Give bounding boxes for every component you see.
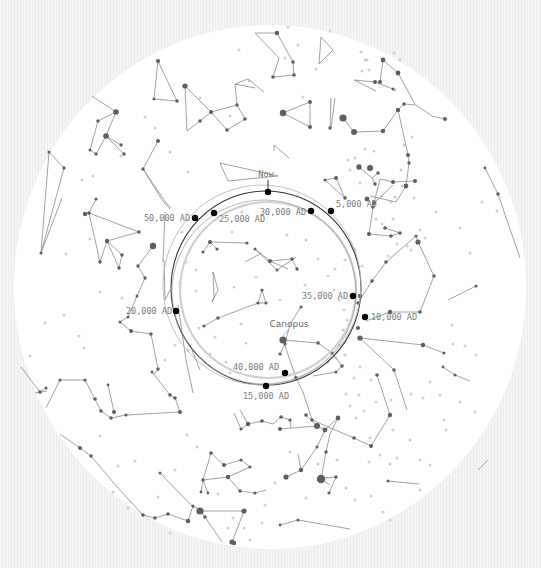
star: [370, 279, 374, 283]
faint-star: [358, 394, 361, 397]
faint-star: [459, 401, 462, 404]
faint-star: [361, 265, 364, 268]
star: [290, 257, 293, 260]
star: [376, 171, 379, 174]
star: [334, 475, 337, 478]
star: [260, 419, 264, 423]
faint-star: [400, 169, 403, 172]
star: [208, 240, 212, 244]
faint-star: [174, 469, 177, 472]
star: [292, 73, 296, 77]
faint-star: [429, 464, 432, 467]
faint-star: [65, 253, 68, 256]
star: [107, 384, 110, 387]
star: [356, 164, 361, 169]
star: [48, 151, 51, 154]
faint-star: [360, 51, 363, 54]
faint-star: [99, 291, 102, 294]
faint-star: [199, 97, 202, 100]
faint-star: [305, 239, 308, 242]
star: [178, 410, 182, 414]
marker-10000: 10,000 AD: [362, 312, 417, 322]
faint-star: [229, 115, 232, 118]
star: [276, 269, 279, 272]
faint-star: [345, 393, 348, 396]
faint-star: [413, 197, 416, 200]
faint-star: [92, 175, 95, 178]
star: [58, 378, 61, 381]
faint-star: [409, 439, 412, 442]
pole-marker-dot: [192, 215, 198, 221]
star: [316, 341, 320, 345]
star: [340, 364, 344, 368]
faint-star: [419, 229, 422, 232]
faint-star: [287, 26, 290, 29]
faint-star: [187, 171, 190, 174]
faint-star: [399, 59, 402, 62]
faint-star: [364, 148, 367, 151]
faint-star: [342, 329, 345, 332]
faint-star: [459, 227, 462, 230]
faint-star: [396, 243, 399, 246]
faint-star: [297, 44, 300, 47]
star: [442, 351, 445, 354]
star: [299, 305, 302, 308]
star: [442, 366, 445, 369]
star: [308, 100, 312, 104]
faint-star: [214, 336, 217, 339]
faint-star: [343, 309, 346, 312]
star: [209, 451, 213, 455]
star: [388, 413, 392, 417]
star: [268, 259, 272, 263]
faint-star: [390, 399, 393, 402]
star: [278, 352, 281, 355]
faint-star: [169, 532, 172, 535]
star: [87, 211, 91, 215]
faint-star: [394, 196, 397, 199]
star: [392, 368, 396, 372]
star: [141, 167, 144, 170]
faint-star: [419, 459, 422, 462]
faint-star: [274, 482, 277, 485]
star: [381, 129, 385, 133]
faint-star: [120, 155, 123, 158]
star: [96, 119, 99, 122]
star: [398, 231, 402, 235]
faint-star: [336, 459, 339, 462]
faint-star: [334, 268, 337, 271]
star: [173, 396, 177, 400]
faint-star: [264, 504, 267, 507]
star: [98, 260, 102, 264]
star: [351, 129, 357, 135]
faint-star: [392, 429, 395, 432]
faint-star: [411, 136, 414, 139]
star: [310, 418, 314, 422]
star: [339, 114, 346, 121]
star: [369, 444, 373, 448]
star: [62, 166, 65, 169]
faint-star: [89, 238, 92, 241]
faint-star: [227, 527, 230, 530]
star: [327, 491, 330, 494]
star: [215, 247, 218, 250]
faint-star: [363, 410, 366, 413]
faint-star: [99, 435, 102, 438]
faint-star: [217, 493, 220, 496]
faint-star: [154, 127, 157, 130]
star: [314, 423, 320, 429]
star: [367, 165, 373, 171]
star: [113, 109, 119, 115]
star: [315, 445, 318, 448]
star-chart: Canopus Now5,000 AD10,000 AD15,000 AD20,…: [0, 0, 541, 568]
faint-star: [375, 218, 378, 221]
star: [159, 472, 162, 475]
star: [151, 371, 154, 374]
star: [83, 212, 87, 216]
star: [392, 88, 395, 91]
faint-star: [198, 327, 201, 330]
star: [209, 110, 213, 114]
faint-star: [284, 57, 287, 60]
faint-star: [359, 366, 362, 369]
faint-star: [379, 454, 382, 457]
faint-star: [289, 451, 292, 454]
